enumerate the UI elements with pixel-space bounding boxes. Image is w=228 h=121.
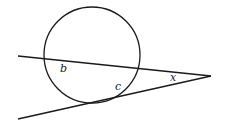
geometry-diagram: b c x <box>0 0 228 121</box>
diagram-canvas <box>0 0 228 121</box>
label-b: b <box>60 63 67 74</box>
circle <box>44 7 140 103</box>
label-c: c <box>115 81 121 92</box>
label-x: x <box>170 72 176 83</box>
